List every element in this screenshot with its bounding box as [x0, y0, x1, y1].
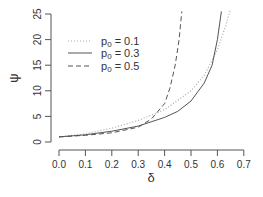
x-axis: 0.00.10.20.30.40.50.60.7 — [52, 150, 251, 170]
legend: p0 = 0.1p0 = 0.3p0 = 0.5 — [68, 35, 139, 74]
y-axis-label: ψ — [6, 73, 21, 82]
x-tick-label: 0.5 — [184, 159, 198, 170]
series-line-2 — [59, 11, 221, 136]
y-tick-label: 5 — [32, 113, 43, 119]
x-tick-label: 0.7 — [237, 159, 251, 170]
y-tick-label: 15 — [32, 59, 43, 71]
y-tick-label: 25 — [32, 8, 43, 20]
y-tick-label: 0 — [32, 139, 43, 145]
x-tick-label: 0.3 — [131, 159, 145, 170]
y-tick-label: 20 — [32, 34, 43, 46]
legend-label: p0 = 0.3 — [101, 47, 139, 61]
x-tick-label: 0.0 — [52, 159, 66, 170]
x-axis-label: δ — [147, 170, 154, 185]
plot-area — [59, 9, 231, 137]
x-tick-label: 0.1 — [78, 159, 92, 170]
x-tick-label: 0.4 — [158, 159, 172, 170]
y-tick-label: 10 — [32, 85, 43, 97]
x-tick-label: 0.2 — [105, 159, 119, 170]
chart: 0510152025 0.00.10.20.30.40.50.60.7 p0 =… — [0, 0, 263, 197]
legend-label: p0 = 0.5 — [101, 60, 139, 74]
series-line-1 — [59, 9, 231, 137]
y-axis: 0510152025 — [32, 8, 51, 145]
x-tick-label: 0.6 — [210, 159, 224, 170]
